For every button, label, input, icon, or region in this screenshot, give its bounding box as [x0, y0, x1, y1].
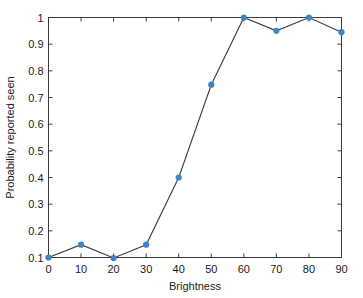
x-axis-tick-label: 0 [45, 263, 51, 275]
y-axis-tick-label: 0.8 [28, 65, 43, 77]
plot-box-frame [49, 18, 342, 258]
data-point-marker [208, 82, 214, 88]
data-point-marker [78, 242, 84, 248]
x-axis-tick-label: 20 [107, 263, 119, 275]
y-axis-tick-label: 0.2 [28, 225, 43, 237]
x-axis-tick-label: 10 [75, 263, 87, 275]
x-axis-title: Brightness [169, 280, 221, 292]
y-axis-tick-label: 0.4 [28, 172, 43, 184]
data-point-marker [241, 14, 247, 20]
data-point-marker [338, 29, 344, 35]
figure-canvas: 0.10.20.30.40.50.60.70.80.91010203040506… [0, 0, 363, 298]
line-chart: 0.10.20.30.40.50.60.70.80.91010203040506… [0, 0, 363, 298]
y-axis-tick-label: 0.6 [28, 118, 43, 130]
y-axis-tick-label: 0.3 [28, 198, 43, 210]
data-point-marker [176, 174, 182, 180]
x-axis-tick-label: 80 [303, 263, 315, 275]
x-axis-tick-label: 50 [205, 263, 217, 275]
data-point-marker [111, 255, 117, 261]
x-axis-tick-label: 30 [140, 263, 152, 275]
y-axis-tick-label: 0.7 [28, 92, 43, 104]
data-point-marker [273, 28, 279, 34]
data-point-marker [143, 242, 149, 248]
y-axis-title: Probability reported seen [4, 76, 16, 198]
data-point-marker [45, 254, 51, 260]
x-axis-tick-label: 70 [270, 263, 282, 275]
x-axis-tick-label: 40 [173, 263, 185, 275]
x-axis-tick-label: 90 [335, 263, 347, 275]
y-axis-tick-label: 0.1 [28, 252, 43, 264]
data-series-line [49, 18, 342, 259]
x-axis-tick-label: 60 [238, 263, 250, 275]
data-point-marker [306, 14, 312, 20]
y-axis-tick-label: 0.9 [28, 38, 43, 50]
y-axis-tick-label: 0.5 [28, 145, 43, 157]
y-axis-tick-label: 1 [37, 12, 43, 24]
